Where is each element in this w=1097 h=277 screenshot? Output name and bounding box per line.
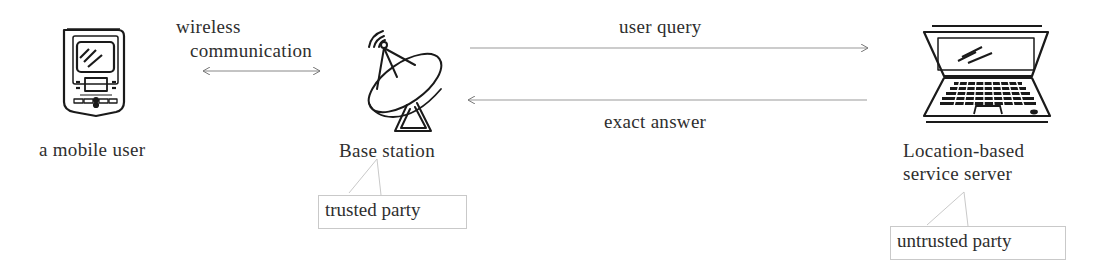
satellite-dish-icon xyxy=(355,25,445,135)
wireless-label-line1: wireless xyxy=(176,16,241,38)
base-station-label: Base station xyxy=(339,140,435,162)
pda-icon xyxy=(60,26,132,120)
laptop-icon xyxy=(922,24,1054,129)
server-label-line1: Location-based xyxy=(903,140,1024,162)
mobile-user-label: a mobile user xyxy=(39,139,145,161)
trusted-party-callout: trusted party xyxy=(318,195,467,229)
wireless-label-line2: communication xyxy=(190,40,312,62)
exact-answer-label: exact answer xyxy=(604,111,706,133)
trusted-callout-pointer xyxy=(349,159,381,195)
untrusted-callout-pointer xyxy=(927,192,968,226)
user-query-label: user query xyxy=(619,16,702,38)
server-label-line2: service server xyxy=(903,163,1012,185)
untrusted-party-callout: untrusted party xyxy=(890,226,1066,260)
